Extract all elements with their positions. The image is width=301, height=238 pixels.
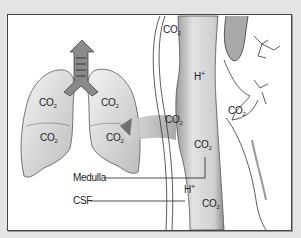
- label-lung-right-upper: CO2: [101, 98, 118, 109]
- label-csf-co2: CO2: [202, 199, 219, 210]
- label-medulla-co2: CO2: [194, 140, 211, 151]
- brain-structures: [224, 16, 280, 230]
- label-lung-right-lower: CO2: [106, 133, 123, 144]
- medulla-shape: [176, 16, 224, 230]
- label-right-co2: CO2: [228, 106, 245, 117]
- label-lung-left-upper: CO2: [39, 98, 56, 109]
- label-vessel-top-co2: CO2: [163, 25, 180, 36]
- label-csf-h-plus: H+: [184, 183, 195, 195]
- callout-medulla: Medulla: [73, 173, 106, 183]
- anatomy-illustration: [0, 0, 301, 238]
- label-lung-left-lower: CO2: [40, 133, 57, 144]
- label-medulla-h-plus: H+: [194, 70, 205, 82]
- callout-csf: CSF: [73, 196, 92, 206]
- label-vessel-mid-co2: CO2: [165, 115, 182, 126]
